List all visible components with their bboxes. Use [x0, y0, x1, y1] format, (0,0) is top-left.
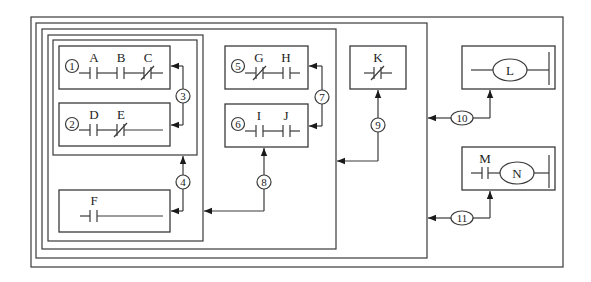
step-label-4: 4	[180, 176, 186, 188]
contact-label-i: I	[257, 108, 261, 123]
rung-box-1: 1 A B C	[59, 46, 170, 89]
contact-no-icon	[283, 67, 290, 79]
connector-9: 9	[337, 90, 385, 161]
rung-box-6: 6 I J	[225, 104, 308, 147]
contact-no-icon	[117, 67, 124, 79]
step-label-2: 2	[69, 118, 75, 130]
contact-no-icon	[90, 67, 97, 79]
contact-no-icon	[90, 210, 97, 222]
step-label-7: 7	[319, 91, 325, 103]
contact-no-icon	[283, 125, 290, 137]
contact-label-f: F	[90, 193, 97, 208]
step-label-6: 6	[235, 118, 241, 130]
contact-label-a: A	[89, 50, 99, 65]
contact-no-icon	[90, 124, 97, 136]
contact-label-e: E	[117, 107, 125, 122]
connector-4: 4	[171, 156, 190, 211]
step-label-5: 5	[235, 60, 241, 72]
rung-box-5: 5 G H	[225, 46, 308, 89]
connector-10: 10	[428, 90, 490, 125]
step-label-1: 1	[69, 60, 75, 72]
contact-no-icon	[256, 125, 263, 137]
contact-label-g: G	[254, 50, 263, 65]
rung-box-n: M N	[462, 147, 555, 190]
contact-no-icon	[482, 167, 488, 179]
step-label-3: 3	[180, 90, 186, 102]
contact-label-d: D	[89, 107, 98, 122]
ladder-diagram: 1 A B C 2 D E 3 F	[0, 0, 591, 282]
rung-box-l: L	[462, 46, 555, 89]
rung-box-f: F	[59, 190, 170, 232]
contact-label-c: C	[144, 50, 153, 65]
step-label-9: 9	[375, 119, 381, 131]
step-label-11: 11	[457, 212, 468, 224]
frame-level-1	[31, 17, 563, 267]
coil-label-n: N	[512, 166, 522, 181]
step-label-8: 8	[261, 176, 267, 188]
contact-label-k: K	[373, 50, 383, 65]
nested-frames	[31, 17, 563, 267]
contact-label-j: J	[283, 108, 288, 123]
coil-label-l: L	[506, 63, 514, 78]
contact-label-m: M	[479, 151, 491, 166]
contact-label-b: B	[117, 50, 126, 65]
connector-8: 8	[204, 148, 271, 211]
connector-7: 7	[309, 66, 329, 126]
rung-box-2: 2 D E	[59, 103, 170, 146]
step-label-10: 10	[457, 112, 469, 124]
rung-box-k: K	[350, 46, 406, 89]
connector-3: 3	[171, 66, 190, 125]
connector-11: 11	[428, 191, 490, 225]
contact-label-h: H	[281, 50, 290, 65]
